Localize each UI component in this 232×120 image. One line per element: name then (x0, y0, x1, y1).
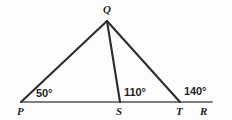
geometry-canvas (0, 0, 232, 120)
angle-label-at-T: 140° (184, 86, 206, 97)
vertex-label-S: S (116, 106, 122, 117)
vertex-label-T: T (176, 106, 183, 117)
vertex-label-Q: Q (103, 4, 111, 15)
geometry-diagram: Q P S T R 50° 110° 140° (0, 0, 232, 120)
vertex-label-P: P (17, 106, 24, 117)
vertex-label-R: R (200, 106, 207, 117)
segment-QP (21, 21, 107, 102)
angle-label-at-P: 50° (36, 88, 52, 99)
angle-label-at-S: 110° (124, 87, 146, 98)
